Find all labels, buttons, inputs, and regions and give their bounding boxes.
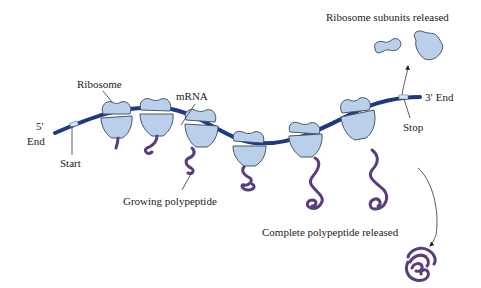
label-three-prime-end: 3′ End — [425, 91, 454, 103]
label-ribosome: Ribosome — [77, 78, 122, 90]
ribosome-leader — [103, 91, 112, 102]
label-stop: Stop — [403, 121, 424, 133]
arrow-to-subunits — [402, 66, 408, 95]
label-growing-polypeptide: Growing polypeptide — [123, 195, 217, 207]
label-five-prime-end: End — [27, 135, 45, 147]
growing-polypeptide-leader — [182, 172, 192, 190]
polypeptide-2 — [145, 136, 157, 153]
released-polypeptide — [406, 248, 435, 280]
ribosome-3 — [185, 109, 218, 173]
label-complete-released: Complete polypeptide released — [262, 226, 399, 238]
label-mrna: mRNA — [176, 90, 208, 102]
arrow-to-complete-polypeptide — [418, 168, 437, 246]
label-subunits-released: Ribosome subunits released — [326, 11, 449, 23]
ribosome-2 — [140, 99, 173, 154]
polypeptide-4 — [242, 167, 254, 190]
small-subunit — [375, 39, 401, 53]
polypeptide-1 — [116, 138, 118, 148]
ribosome-5 — [289, 122, 322, 208]
label-five-prime: 5′ — [36, 120, 44, 132]
released-subunits — [375, 31, 443, 60]
large-subunit — [414, 31, 442, 60]
polypeptide-5 — [307, 158, 322, 208]
stop-codon-marker — [399, 95, 408, 99]
label-start: Start — [60, 157, 81, 169]
polyribosome-diagram: Ribosome mRNA 5′ End Start Growing polyp… — [0, 0, 481, 288]
ribosome-1 — [101, 102, 132, 148]
start-codon-marker — [70, 121, 79, 127]
polypeptide-6 — [370, 150, 386, 209]
polypeptide-3 — [186, 148, 194, 173]
ribosome-4 — [233, 131, 266, 190]
stop-leader — [404, 99, 410, 118]
